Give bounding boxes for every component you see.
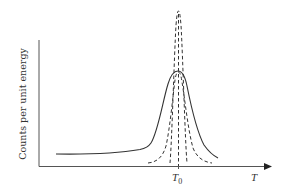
t0-tick-label: T0 — [172, 171, 182, 186]
plot-area — [0, 0, 290, 193]
solid-spectrum-curve — [56, 71, 218, 158]
y-axis-label: Counts per unit energy — [17, 48, 28, 160]
dashed-broad-peak — [148, 72, 212, 163]
x-axis-arrow-icon — [264, 163, 272, 170]
spectrum-diagram: Counts per unit energy T0 T — [0, 0, 290, 193]
t0-subscript: 0 — [178, 177, 182, 186]
x-axis-label: T — [251, 171, 257, 183]
